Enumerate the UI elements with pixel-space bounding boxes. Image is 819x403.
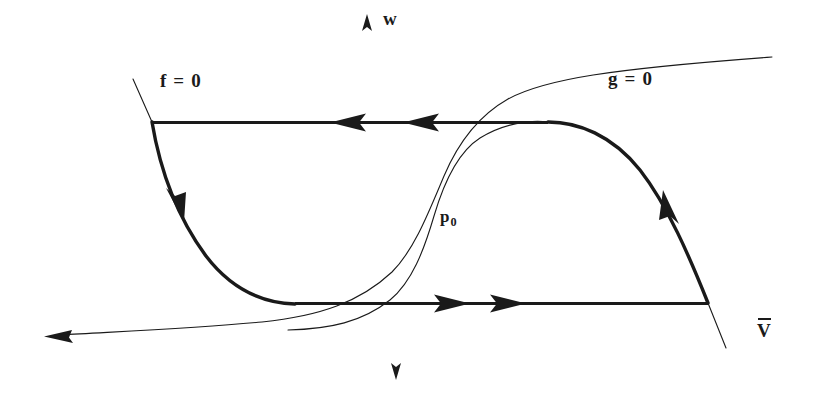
- w-axis-up-arrow-icon: [362, 14, 372, 31]
- fixed-point-label: p0: [440, 207, 458, 230]
- flow-arrowhead-left-branch: [166, 188, 186, 222]
- f-nullcline-upper-left-tail: [133, 79, 152, 122]
- fixed-point-label-subscript: 0: [450, 215, 457, 229]
- limit-cycle-group: [152, 114, 708, 313]
- limit-cycle-right-branch: [548, 122, 708, 303]
- x-axis-label-text: V: [757, 320, 772, 341]
- y-axis-label: w: [383, 8, 398, 30]
- v-axis-down-arrow-icon: [391, 363, 401, 380]
- f-nullcline-label: f = 0: [160, 70, 202, 92]
- phase-plane-figure: f = 0 g = 0 p0 w V: [0, 0, 819, 403]
- g-nullcline-left-arrowhead: [44, 330, 73, 343]
- g-nullcline-label: g = 0: [608, 68, 653, 90]
- f-nullcline-middle-branch: [288, 121, 548, 330]
- phase-plane-canvas: [0, 0, 819, 403]
- limit-cycle-left-branch: [152, 122, 295, 304]
- x-axis-label-overbar: [758, 318, 771, 320]
- x-axis-label: V: [757, 320, 772, 342]
- fixed-point-label-base: p: [440, 207, 450, 226]
- axis-arrow-group: [362, 14, 401, 380]
- f-nullcline-lower-right-tail: [708, 303, 726, 348]
